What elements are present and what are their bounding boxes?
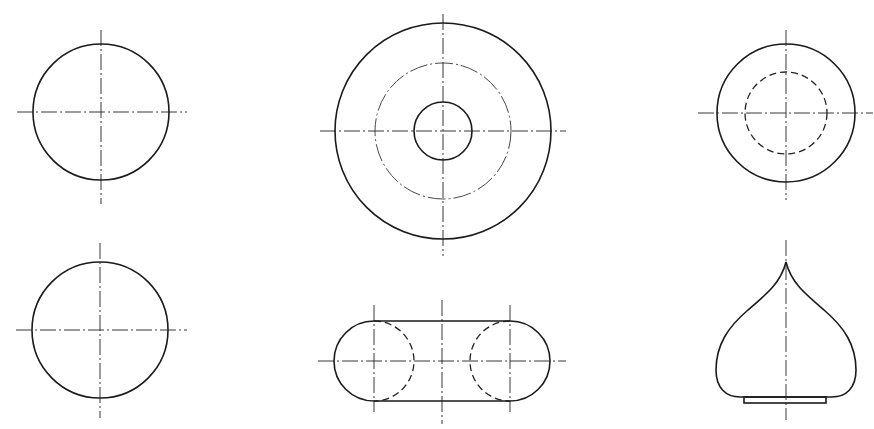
view-stadium-bottom-middle [318, 300, 566, 424]
view-onion-dome-bottom-right [716, 240, 856, 420]
base-plate [744, 397, 826, 403]
dome-outline [716, 262, 856, 397]
technical-drawing-canvas [0, 0, 874, 429]
view-circle-bottom-left [16, 243, 187, 418]
view-circle-top-left [17, 30, 187, 204]
view-circle-hidden-top-right [698, 30, 873, 200]
view-concentric-top-middle [320, 14, 566, 256]
